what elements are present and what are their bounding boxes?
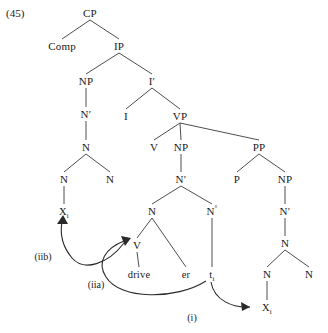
movement-arrow-i [211, 282, 250, 307]
tree-edge-n4-v2 [137, 218, 152, 238]
tree-edge-ibar-i [126, 88, 152, 109]
tree-node-n7: N [263, 269, 271, 280]
tree-node-x1: Xi [59, 206, 69, 217]
tree-node-n6: N [281, 238, 289, 249]
tree-edge-n4-er [152, 218, 186, 267]
tree-edge-pp-np3 [259, 154, 285, 172]
movement-arrow-iib [61, 222, 124, 265]
tree-edge-nbar2-n4 [152, 186, 181, 204]
tree-edge-vp-v1 [154, 123, 180, 140]
tree-node-cp: CP [83, 8, 97, 19]
movement-label-iib: (iib) [34, 252, 51, 262]
tree-node-ibar: I′ [149, 76, 155, 87]
tree-edge-n1-n2 [64, 154, 86, 172]
tree-node-np1: NP [79, 76, 93, 87]
tree-node-np3: NP [278, 174, 292, 185]
tree-edge-ibar-vp [152, 88, 180, 109]
tree-edge-cp-comp [62, 20, 90, 39]
tree-node-n2: N [60, 174, 68, 185]
tree-edge-pp-p [237, 154, 259, 172]
tree-node-n8: N [305, 269, 313, 280]
tree-edge-n6-n8 [285, 250, 309, 267]
movement-label-iia: (iia) [88, 280, 105, 290]
tree-node-nbar3: N′ [280, 206, 291, 217]
tree-edge-ip-np1 [86, 53, 119, 74]
tree-node-er: er [182, 269, 191, 280]
tree-node-t1: ti [209, 269, 214, 280]
tree-node-p: P [234, 174, 240, 185]
tree-node-np2: NP [174, 142, 188, 153]
tree-node-pp: PP [253, 142, 266, 153]
tree-node-v1: V [150, 142, 158, 153]
tree-node-i: I [124, 111, 128, 122]
tree-edge-n6-n7 [267, 250, 285, 267]
tree-edge-vp-pp [180, 123, 259, 140]
tree-node-ip: IP [114, 41, 124, 52]
tree-node-n4: N [148, 206, 156, 217]
tree-node-n1: N [82, 142, 90, 153]
movement-arrows [57, 215, 250, 311]
tree-edge-ip-ibar [119, 53, 152, 74]
tree-edge-cp-ip [90, 20, 119, 39]
tree-node-n5: N° [206, 206, 217, 217]
tree-node-drive: drive [128, 269, 151, 280]
movement-arrow-i-head [241, 302, 250, 311]
tree-node-vp: VP [173, 111, 187, 122]
tree-node-x2: Xi [262, 302, 272, 313]
movement-label-i: (i) [187, 313, 196, 323]
tree-edge-n1-n3 [86, 154, 110, 172]
tree-branch-lines [62, 20, 309, 300]
tree-edge-v2-drive [137, 252, 139, 267]
tree-node-comp: Comp [48, 41, 76, 52]
tree-edge-nbar2-n5 [181, 186, 212, 204]
tree-node-n3: N [106, 174, 114, 185]
syntax-tree-figure: (45) CPCompIPNPI′N′IVPNVNPPPNNN′PNPXiNN°… [0, 0, 328, 333]
tree-node-v2: V [133, 240, 141, 251]
tree-edge-vp-np2 [180, 123, 181, 140]
tree-node-nbar1: N′ [81, 109, 92, 120]
tree-node-nbar2: N′ [176, 174, 187, 185]
